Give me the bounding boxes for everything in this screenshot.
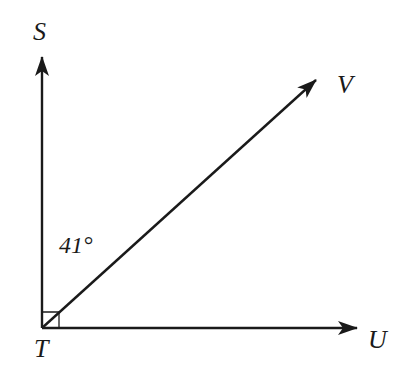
label-s: S — [33, 17, 46, 46]
angle-annotation: 41° — [59, 232, 93, 258]
ray-tv — [42, 80, 316, 328]
label-t: T — [34, 334, 50, 363]
angle-diagram: S V U T 41° — [0, 0, 410, 376]
label-v: V — [337, 70, 356, 99]
label-u: U — [368, 325, 389, 354]
